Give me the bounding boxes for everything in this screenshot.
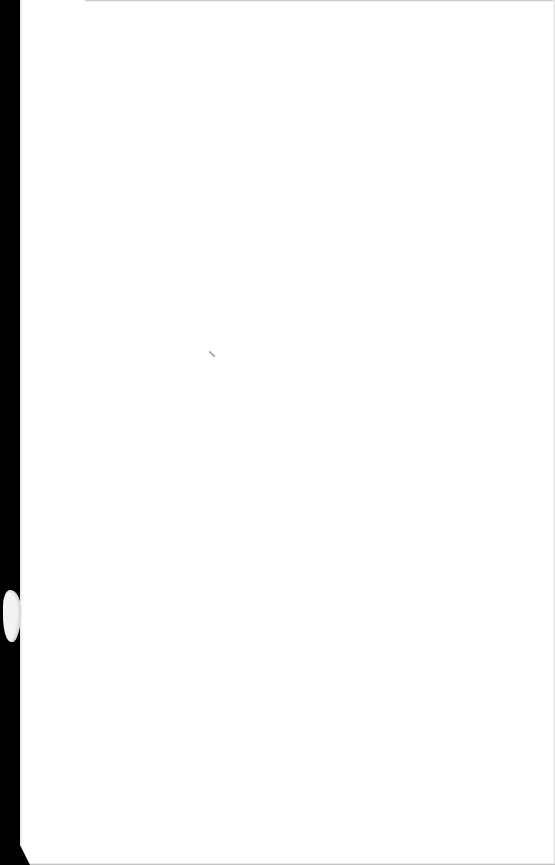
page-edge-shadow xyxy=(20,0,23,865)
page-top-edge xyxy=(85,0,555,2)
scanned-page: { "document": { "type": "blank scanned p… xyxy=(0,0,555,865)
scanner-corner-bottom-left xyxy=(0,835,30,865)
scanner-edge-left xyxy=(0,0,20,865)
page-content xyxy=(40,40,525,825)
